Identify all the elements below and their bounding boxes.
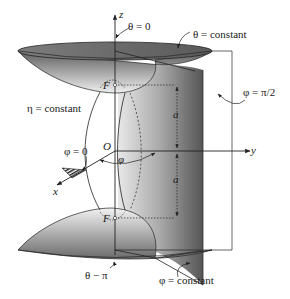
eta-constant-label: η = constant <box>27 102 81 114</box>
a-lower-label: a <box>173 173 179 185</box>
origin-label: O <box>103 140 111 152</box>
phi-constant-label: φ = constant <box>159 274 214 286</box>
theta-pi-label: θ − π <box>85 269 108 281</box>
theta-zero-label: θ = 0 <box>128 20 151 32</box>
z-axis-label: z <box>118 8 124 20</box>
phi-angle-label: φ <box>118 153 124 165</box>
focus-bottom-label: F <box>102 212 110 224</box>
a-upper-label: a <box>173 108 179 120</box>
x-axis-label: x <box>52 185 58 197</box>
y-axis-label: y <box>250 144 256 156</box>
theta-constant-label: θ = constant <box>193 28 247 40</box>
prolate-spheroidal-diagram: z y x O F F θ = 0 θ = constant φ = π/2 η… <box>0 0 290 299</box>
focus-top-label: F <box>102 79 110 91</box>
focus-top-point <box>113 83 116 86</box>
focus-bottom-point <box>113 216 116 219</box>
phi-zero-label: φ = 0 <box>64 145 88 157</box>
phi-half-pi-label: φ = π/2 <box>243 86 275 98</box>
